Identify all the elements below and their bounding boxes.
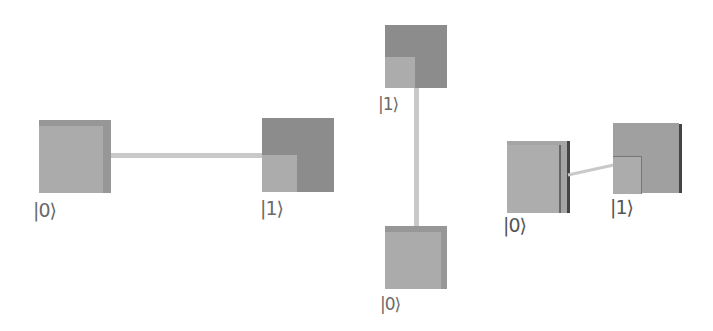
state-one-label: |1⟩: [610, 198, 633, 217]
state-one-label: |1⟩: [378, 96, 398, 113]
state-zero-box: [385, 226, 447, 289]
slab-front: [507, 145, 559, 213]
state-zero-box: [39, 120, 111, 193]
state-zero-face: [39, 126, 103, 193]
slab-inner-square: [613, 156, 642, 194]
state-zero-label: |0⟩: [33, 201, 56, 220]
slab-inner-edge: [559, 145, 561, 213]
connector-line: [414, 88, 419, 227]
state-one-slab: [613, 123, 683, 193]
state-one-inner-square: [385, 57, 415, 88]
state-one-box: [262, 118, 334, 192]
slab-outer-edge: [679, 124, 682, 193]
state-zero-label: |0⟩: [503, 216, 526, 235]
state-one-inner-square: [262, 155, 297, 192]
connector-line: [111, 153, 263, 158]
state-zero-label: |0⟩: [380, 296, 400, 313]
state-zero-slab: [507, 141, 571, 213]
state-one-label: |1⟩: [260, 199, 283, 218]
state-one-box: [385, 25, 447, 88]
state-zero-face: [385, 232, 441, 289]
